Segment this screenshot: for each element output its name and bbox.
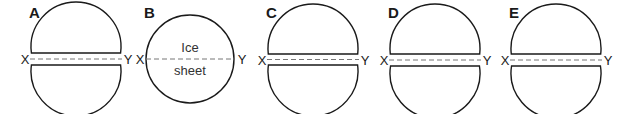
upper-ice-half <box>31 2 121 53</box>
panel-a: AXY <box>21 2 133 114</box>
panel-label: B <box>144 4 155 21</box>
ice-label: Ice <box>181 40 198 55</box>
panel-label: C <box>266 4 277 21</box>
ice-sheet-split-diagram: AXYBIcesheetXYCXYDXYEXY <box>0 0 627 114</box>
y-label: Y <box>604 53 613 68</box>
lower-ice-half <box>511 66 601 114</box>
panel-label: E <box>509 4 519 21</box>
upper-ice-half <box>511 4 601 54</box>
lower-ice-half <box>390 66 480 114</box>
panel-label: D <box>388 4 399 21</box>
y-label: Y <box>238 52 247 67</box>
panel-b: BIcesheetXY <box>136 4 247 103</box>
x-label: X <box>21 52 30 67</box>
panel-d: DXY <box>380 4 492 114</box>
upper-ice-half <box>268 4 358 54</box>
y-label: Y <box>483 53 492 68</box>
upper-ice-half <box>390 4 480 54</box>
lower-ice-half <box>268 65 358 114</box>
y-label: Y <box>124 52 133 67</box>
x-label: X <box>258 53 267 68</box>
panel-c: CXY <box>258 4 370 114</box>
panel-label: A <box>29 4 40 21</box>
y-label: Y <box>361 53 370 68</box>
x-label: X <box>136 52 145 67</box>
sheet-label: sheet <box>174 63 206 78</box>
panel-e: EXY <box>501 4 613 114</box>
x-label: X <box>380 53 389 68</box>
lower-ice-half <box>31 65 121 114</box>
x-label: X <box>501 53 510 68</box>
